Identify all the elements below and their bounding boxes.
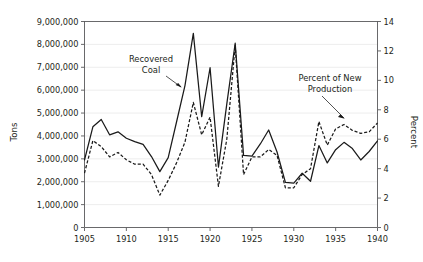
annotation-percent-line1: Percent of New xyxy=(298,73,361,83)
y-tick-label: 4,000,000 xyxy=(37,131,79,141)
x-tick-label: 1915 xyxy=(158,234,179,244)
y-tick-label: 2,000,000 xyxy=(37,177,79,187)
y2-tick-label: 10 xyxy=(384,75,394,85)
y2-tick-label: 2 xyxy=(384,193,389,203)
y-tick-label: 7,000,000 xyxy=(37,62,79,72)
annotation-recovered-coal-line1: Recovered xyxy=(129,54,173,64)
x-tick-label: 1935 xyxy=(325,234,346,244)
y-tick-label: 5,000,000 xyxy=(37,108,79,118)
y2-tick-label: 4 xyxy=(384,164,389,174)
x-tick-label: 1910 xyxy=(116,234,137,244)
y-tick-label: 1,000,000 xyxy=(37,200,79,210)
y2-tick-label: 6 xyxy=(384,134,389,144)
x-tick-label: 1940 xyxy=(367,234,388,244)
y-tick-label: 6,000,000 xyxy=(37,85,79,95)
y2-tick-label: 8 xyxy=(384,105,389,115)
annotation-recovered-coal-line2: Coal xyxy=(142,65,160,75)
y2-axis-title: Percent xyxy=(409,116,419,149)
x-tick-label: 1905 xyxy=(74,234,95,244)
annotation-percent-line2: Production xyxy=(308,84,353,94)
y2-tick-label: 14 xyxy=(384,17,394,27)
y-tick-label: 0 xyxy=(73,223,78,233)
y2-tick-label: 12 xyxy=(384,46,394,56)
x-tick-label: 1920 xyxy=(200,234,221,244)
y2-tick-label: 0 xyxy=(384,223,389,233)
x-tick-label: 1925 xyxy=(242,234,263,244)
y-axis-title: Tons xyxy=(9,122,19,142)
chart-container: 01,000,0002,000,0003,000,0004,000,0005,0… xyxy=(0,0,423,262)
y-tick-label: 9,000,000 xyxy=(37,17,79,27)
x-tick-label: 1930 xyxy=(283,234,304,244)
y-tick-label: 3,000,000 xyxy=(37,154,79,164)
line-chart: 01,000,0002,000,0003,000,0004,000,0005,0… xyxy=(0,0,423,262)
y-tick-label: 8,000,000 xyxy=(37,39,79,49)
